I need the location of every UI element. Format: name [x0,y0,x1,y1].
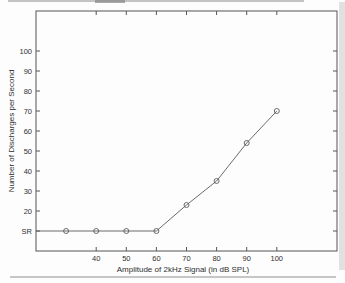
y-tick-label: 90 [24,67,32,76]
y-tick-label: 80 [24,87,32,96]
x-tick-label: 70 [182,254,190,263]
y-axis-label: Number of Discharges per Second [7,70,16,193]
y-tick-label: 30 [24,187,32,196]
scanned-chart-page: 405060708090100SR2030405060708090100 Amp… [0,0,345,283]
plot-area: 405060708090100SR2030405060708090100 [19,11,337,263]
trace-line [36,111,277,231]
x-tick-label: 60 [152,254,160,263]
x-tick-label: 50 [122,254,130,263]
x-tick-label: 80 [212,254,220,263]
y-tick-label: 70 [24,107,32,116]
x-axis-label: Amplitude of 2kHz Signal (in dB SPL) [117,265,250,274]
x-tick-label: 100 [271,254,284,263]
x-tick-label: 40 [92,254,100,263]
y-tick-label: 20 [24,207,32,216]
y-tick-label: 40 [24,167,32,176]
x-tick-label: 90 [243,254,251,263]
y-tick-label: 50 [24,147,32,156]
plot-box [36,11,337,251]
y-tick-label: 60 [24,127,32,136]
y-tick-label: SR [22,227,33,236]
rate-level-function-chart: 405060708090100SR2030405060708090100 Amp… [0,0,345,283]
y-tick-label: 100 [19,47,32,56]
